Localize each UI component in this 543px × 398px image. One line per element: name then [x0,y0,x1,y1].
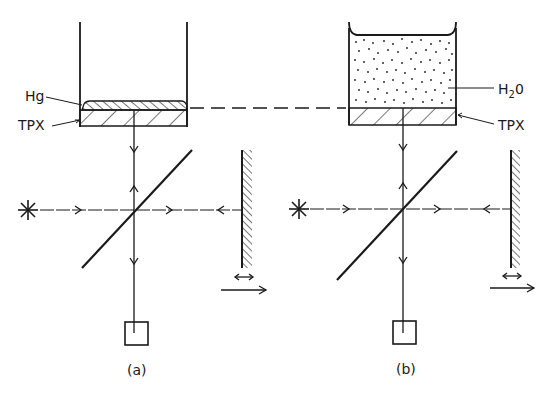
movable-mirror-a [242,150,252,268]
detector-b [393,321,416,344]
double-arrow-icon-a [235,274,253,280]
beam-splitter-a [82,150,192,268]
detector-a [125,322,148,345]
label-tpx-a: TPX [17,117,45,133]
displacement-arrow-icon-a [221,286,266,294]
horizontal-beam-b [310,205,510,213]
water-fill [354,38,453,104]
movable-mirror-b [511,150,520,268]
double-arrow-icon-b [503,273,521,279]
vertical-beam-b [399,108,407,333]
light-source-icon-b [289,199,309,219]
vertical-beam-a [130,110,138,333]
beam-splitter-b [337,151,457,280]
displacement-arrow-icon-b [490,284,534,292]
caption-b: (b) [396,361,416,377]
interferometer-diagram: Hg TPX [0,0,543,398]
label-h2o: H20 [498,81,524,100]
caption-a: (a) [127,362,147,378]
horizontal-beam-a [40,206,241,214]
panel-b: H20 TPX [289,22,534,377]
mercury-layer [82,101,187,110]
label-tpx-b: TPX [497,117,525,133]
panel-a: Hg TPX [17,22,266,378]
label-hg: Hg [25,88,44,104]
light-source-icon-a [18,200,38,220]
